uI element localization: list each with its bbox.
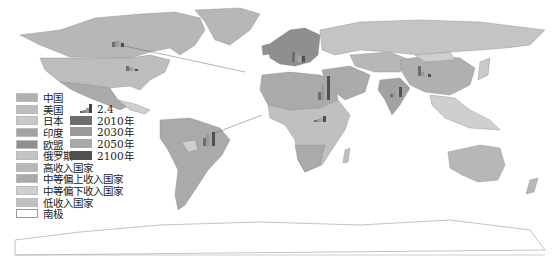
antarctica (15, 220, 545, 255)
bar-series-legend: 2.4 2010年 2030年 2050年 2100年 (70, 103, 134, 161)
southeast-asia (430, 95, 500, 130)
southern-africa (295, 145, 325, 172)
legend-item-2100: 2100年 (70, 149, 134, 161)
madagascar (343, 148, 350, 163)
greenland (195, 8, 260, 45)
usa (40, 55, 170, 90)
mini-bar-icon (70, 104, 92, 113)
legend-item-antarctica: 南极 (16, 208, 123, 220)
south-america (160, 118, 230, 210)
new-zealand (526, 178, 538, 194)
russia (320, 20, 545, 55)
canada (20, 12, 205, 58)
australia (448, 145, 505, 182)
legend-item-low-income: 低收入国家 (16, 196, 123, 208)
japan (478, 58, 490, 80)
